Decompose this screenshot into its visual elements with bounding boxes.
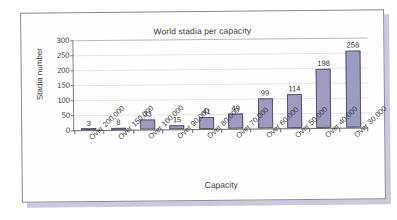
x-axis-category-labels: Over 200,000Over 150,000Over 100,000Over…	[73, 132, 368, 185]
x-axis-title: Capacity	[74, 178, 369, 191]
category-slot: Over 90,000	[162, 134, 192, 184]
y-axis-title: Stadia number	[35, 34, 45, 114]
x-tick-mark	[74, 130, 75, 134]
y-tick-label: 100	[57, 96, 70, 105]
bar-value-label: 198	[309, 58, 338, 67]
y-tick-label: 150	[57, 81, 70, 90]
screenshot-root: World stadia per capacity Stadia number …	[0, 0, 397, 220]
category-slot: Over 80,000	[191, 134, 221, 184]
bar-value-label: 114	[280, 84, 309, 93]
category-slot: Over 50,000	[280, 133, 310, 183]
y-tick-label: 250	[57, 51, 70, 60]
category-slot: Over 100,000	[132, 134, 162, 184]
category-slot: Over 70,000	[221, 134, 251, 184]
category-slot: Over 200,000	[73, 135, 103, 185]
category-slot: Over 60,000	[250, 133, 280, 183]
category-slot: Over 150,000	[103, 135, 133, 185]
category-slot: Over 30,000	[339, 132, 369, 182]
y-tick-label: 0	[66, 126, 70, 135]
chart-frame: World stadia per capacity Stadia number …	[20, 9, 386, 202]
chart-title: World stadia per capacity	[21, 24, 383, 37]
y-tick-label: 300	[57, 36, 70, 45]
bar-value-label: 99	[250, 89, 279, 98]
y-tick-label: 200	[57, 66, 70, 75]
bar-slot: 3	[73, 40, 103, 130]
category-slot: Over 40,000	[309, 133, 339, 183]
y-tick-label: 50	[62, 111, 70, 120]
bar-value-label: 258	[338, 40, 367, 49]
